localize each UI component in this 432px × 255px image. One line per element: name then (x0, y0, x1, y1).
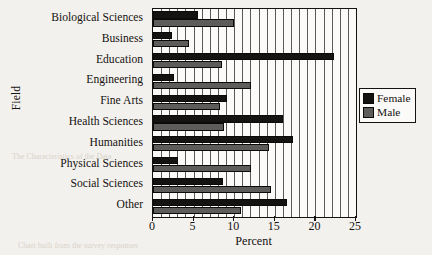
category-label: Engineering (86, 70, 143, 91)
x-axis-tick-labels: 0510152025 (152, 219, 355, 235)
x-tick-label: 0 (149, 219, 155, 234)
bar-male (153, 40, 189, 47)
category-label: Humanities (90, 133, 143, 154)
legend-label-female: Female (377, 92, 411, 104)
bar-female (153, 115, 283, 122)
bar-female (153, 178, 223, 185)
bars-layer (153, 9, 356, 217)
x-axis-title: Percent (152, 234, 355, 249)
legend-label-male: Male (377, 106, 400, 118)
bar-female (153, 11, 198, 18)
legend-item-female: Female (363, 91, 411, 105)
x-tick-label: 5 (190, 219, 196, 234)
bar-male (153, 61, 222, 68)
bar-male (153, 186, 271, 193)
legend-swatch-male-icon (363, 107, 374, 118)
category-label: Fine Arts (100, 91, 143, 112)
bar-male (153, 103, 220, 110)
category-label: Other (117, 195, 143, 216)
legend: Female Male (359, 88, 416, 123)
bar-male (153, 82, 251, 89)
bar-female (153, 32, 172, 39)
legend-item-male: Male (363, 105, 411, 119)
bar-male (153, 144, 269, 151)
bar-female (153, 95, 227, 102)
category-label: Health Sciences (69, 112, 143, 133)
bar-female (153, 53, 334, 60)
category-label: Social Sciences (71, 174, 143, 195)
bar-female (153, 157, 178, 164)
category-label: Education (96, 50, 143, 71)
bar-male (153, 207, 241, 214)
legend-swatch-female-icon (363, 93, 374, 104)
category-axis-labels: Biological SciencesBusinessEducationEngi… (8, 8, 147, 216)
x-tick-label: 25 (349, 219, 361, 234)
x-tick-label: 15 (268, 219, 280, 234)
page-artifact: The Characteristics of the Data (12, 152, 112, 161)
page-artifact: Chart built from the survey responses (18, 241, 138, 250)
x-tick-label: 10 (227, 219, 239, 234)
bar-female (153, 74, 174, 81)
bar-male (153, 165, 251, 172)
bar-male (153, 123, 224, 130)
bar-female (153, 199, 287, 206)
category-label: Business (102, 29, 143, 50)
bar-female (153, 136, 293, 143)
plot-area (152, 8, 357, 218)
category-label: Biological Sciences (51, 8, 143, 29)
x-tick-label: 20 (308, 219, 320, 234)
bar-chart: Field Biological SciencesBusinessEducati… (0, 0, 432, 255)
bar-male (153, 19, 234, 26)
